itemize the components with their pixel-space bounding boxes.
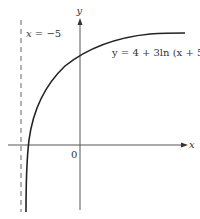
asymptote-label: x = −5 bbox=[26, 28, 61, 39]
origin-label: 0 bbox=[71, 149, 77, 160]
equation-label: y = 4 + 3ln (x + 5) bbox=[111, 47, 200, 58]
log-curve bbox=[26, 33, 185, 212]
y-axis-arrow-icon bbox=[78, 18, 83, 25]
graph-canvas: x y 0 x = −5 y = 4 + 3ln (x + 5) bbox=[0, 0, 200, 219]
y-axis-label: y bbox=[76, 5, 83, 16]
x-axis-arrow-icon bbox=[181, 143, 188, 148]
x-axis-label: x bbox=[189, 139, 195, 150]
